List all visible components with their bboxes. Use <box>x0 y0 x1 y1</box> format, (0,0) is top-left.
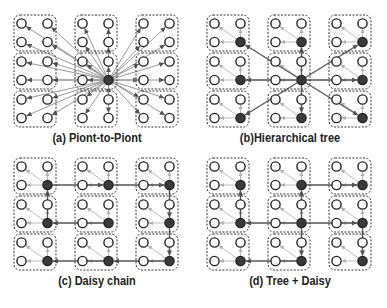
node <box>139 218 148 227</box>
active-node <box>165 180 174 189</box>
node <box>78 95 87 104</box>
node <box>43 95 52 104</box>
node <box>78 238 87 247</box>
intra-group-link <box>219 27 236 39</box>
active-node <box>43 218 52 227</box>
node <box>236 162 245 171</box>
p2p-link <box>27 82 104 116</box>
active-node <box>358 75 367 84</box>
node <box>104 19 113 28</box>
intra-group-link <box>280 208 297 220</box>
node <box>236 238 245 247</box>
active-node <box>297 113 306 122</box>
node <box>210 238 219 247</box>
node <box>139 95 148 104</box>
panel-a <box>14 15 178 127</box>
active-node <box>236 256 245 265</box>
node <box>104 200 113 209</box>
caption-panel-d: (d) Tree + Daisy <box>205 274 376 288</box>
node <box>165 162 174 171</box>
node <box>332 162 341 171</box>
node <box>358 200 367 209</box>
node <box>332 218 341 227</box>
panel-c <box>14 158 178 270</box>
node <box>104 37 113 46</box>
node <box>165 200 174 209</box>
intra-group-link <box>219 208 236 220</box>
node <box>297 200 306 209</box>
intra-group-link <box>87 246 104 258</box>
node <box>236 200 245 209</box>
intra-group-link <box>341 208 358 220</box>
caption-panel-c: (c) Daisy chain <box>12 274 183 288</box>
active-node <box>297 180 306 189</box>
node <box>165 238 174 247</box>
active-node <box>297 218 306 227</box>
node <box>17 57 26 66</box>
node <box>271 113 280 122</box>
node <box>78 200 87 209</box>
node <box>271 218 280 227</box>
node <box>78 37 87 46</box>
node <box>43 75 52 84</box>
node <box>104 113 113 122</box>
p2p-link <box>27 81 104 98</box>
node <box>210 57 219 66</box>
node <box>17 200 26 209</box>
node <box>236 57 245 66</box>
node <box>139 200 148 209</box>
node <box>165 75 174 84</box>
node <box>17 238 26 247</box>
node <box>78 162 87 171</box>
intra-group-link <box>219 65 236 77</box>
node <box>43 37 52 46</box>
node <box>271 162 280 171</box>
node <box>210 95 219 104</box>
node <box>332 113 341 122</box>
node <box>271 57 280 66</box>
intra-group-link <box>87 170 104 182</box>
node <box>139 113 148 122</box>
intra-group-link <box>219 170 236 182</box>
intra-group-link <box>341 246 358 258</box>
intra-group-link <box>26 246 43 258</box>
intra-group-link <box>280 170 297 182</box>
active-node <box>104 75 113 84</box>
node <box>210 75 219 84</box>
caption-panel-b: (b)Hierarchical tree <box>205 131 376 145</box>
node <box>139 19 148 28</box>
active-node <box>236 75 245 84</box>
active-node <box>104 256 113 265</box>
node <box>332 95 341 104</box>
node <box>332 256 341 265</box>
node <box>43 200 52 209</box>
node <box>210 19 219 28</box>
active-node <box>358 180 367 189</box>
node <box>236 19 245 28</box>
node <box>332 57 341 66</box>
p2p-link <box>111 28 140 75</box>
active-node <box>43 256 52 265</box>
active-node <box>297 75 306 84</box>
node <box>139 180 148 189</box>
node <box>210 37 219 46</box>
node <box>17 37 26 46</box>
node <box>104 238 113 247</box>
node <box>43 162 52 171</box>
active-node <box>297 37 306 46</box>
active-node <box>104 218 113 227</box>
node <box>332 238 341 247</box>
node <box>17 75 26 84</box>
active-node <box>104 180 113 189</box>
intra-group-link <box>148 208 165 220</box>
node <box>139 37 148 46</box>
node <box>165 37 174 46</box>
intra-group-link <box>26 208 43 220</box>
node <box>78 75 87 84</box>
node <box>332 200 341 209</box>
active-node <box>165 256 174 265</box>
node <box>358 95 367 104</box>
node <box>358 57 367 66</box>
active-node <box>43 180 52 189</box>
topology-figure <box>0 0 387 308</box>
